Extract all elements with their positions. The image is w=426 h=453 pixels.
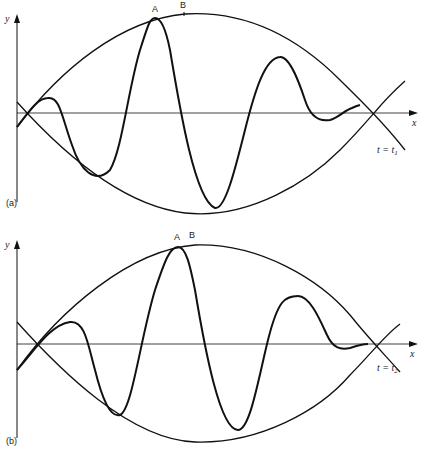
x-axis-label: x	[411, 117, 417, 128]
x-axis-arrow-icon	[409, 110, 418, 116]
panel-label: (a)	[6, 198, 17, 208]
time-label: t = t1	[377, 144, 398, 157]
lower-envelope	[17, 322, 400, 442]
y-axis-arrow-icon	[14, 240, 20, 249]
point-a-label: A	[152, 4, 158, 14]
point-a-label: A	[174, 232, 180, 242]
upper-envelope	[17, 245, 400, 372]
y-axis-arrow-icon	[14, 14, 20, 23]
x-axis-arrow-icon	[409, 341, 418, 347]
y-axis-label: y	[4, 239, 10, 250]
point-b-label: B	[180, 0, 186, 10]
panel-label: (b)	[6, 436, 17, 446]
panel-b: y x A B t = t2 (b)	[4, 230, 418, 446]
y-axis-label: y	[4, 13, 10, 24]
wave-packet-curve	[17, 247, 368, 430]
time-label: t = t2	[377, 362, 398, 375]
lower-envelope	[17, 81, 405, 214]
x-axis-label: x	[409, 348, 415, 359]
upper-envelope	[17, 14, 405, 150]
panel-a: y x A B t = t1 (a)	[4, 0, 418, 214]
wave-packet-diagram: y x A B t = t1 (a) y x	[0, 0, 426, 453]
point-b-label: B	[189, 230, 195, 240]
